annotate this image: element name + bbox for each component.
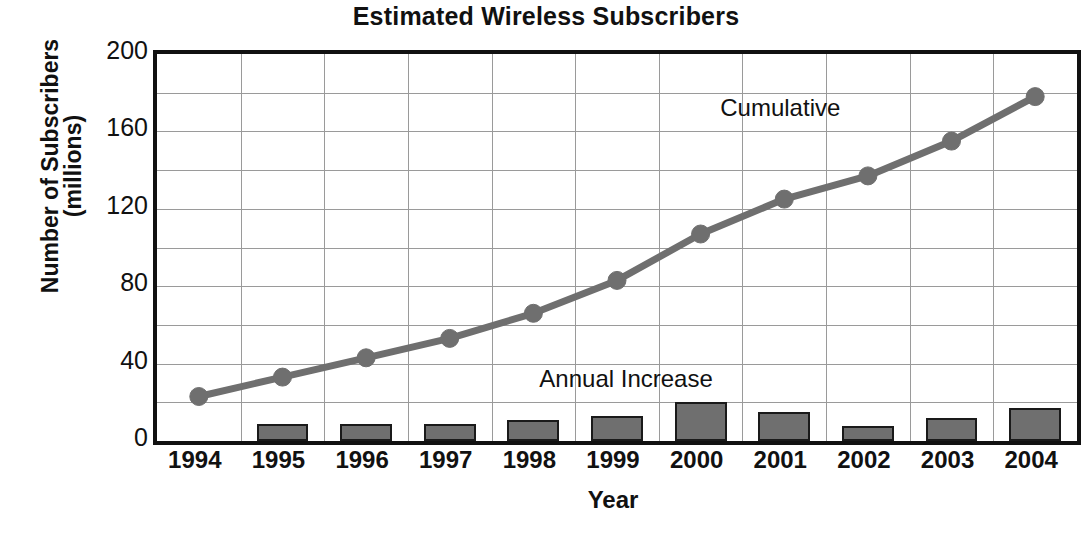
x-axis-tick-label: 2002 xyxy=(837,446,890,474)
x-axis-tick-label: 2000 xyxy=(670,446,723,474)
series-label-cumulative: Cumulative xyxy=(720,94,840,122)
data-point-marker xyxy=(190,388,208,406)
x-axis-tick-labels: 1994199519961997199819992000200120022003… xyxy=(153,446,1073,480)
data-point-marker xyxy=(1026,88,1044,106)
x-axis-tick-label: 1996 xyxy=(335,446,388,474)
x-axis-tick-label: 1997 xyxy=(419,446,472,474)
y-axis-tick-label: 80 xyxy=(86,268,148,297)
y-axis-tick-label: 0 xyxy=(86,423,148,452)
x-axis-tick-label: 1994 xyxy=(168,446,221,474)
x-axis-tick-label: 2001 xyxy=(754,446,807,474)
x-axis-tick-label: 2004 xyxy=(1004,446,1057,474)
data-point-marker xyxy=(357,349,375,367)
y-axis-title: Number of Subscribers (millions) xyxy=(32,0,92,346)
series-label-annual-increase: Annual Increase xyxy=(539,365,712,393)
plot-inner: CumulativeAnnual Increase xyxy=(157,54,1077,441)
data-point-marker xyxy=(775,190,793,208)
cumulative-line-path xyxy=(199,97,1035,397)
y-axis-tick-label: 160 xyxy=(86,113,148,142)
y-axis-tick-labels: 04080120160200 xyxy=(86,0,148,537)
x-axis-tick-label: 1998 xyxy=(503,446,556,474)
x-axis-tick-label: 1995 xyxy=(252,446,305,474)
y-axis-tick-label: 120 xyxy=(86,190,148,219)
y-axis-tick-label: 200 xyxy=(86,36,148,65)
x-axis-tick-label: 2003 xyxy=(921,446,974,474)
data-point-marker xyxy=(524,304,542,322)
x-axis-tick-label: 1999 xyxy=(586,446,639,474)
data-point-marker xyxy=(859,167,877,185)
x-axis-title: Year xyxy=(153,486,1073,514)
plot-area: CumulativeAnnual Increase xyxy=(153,50,1081,445)
chart-title: Estimated Wireless Subscribers xyxy=(0,2,1092,31)
data-point-marker xyxy=(608,271,626,289)
y-axis-title-line-2: (millions) xyxy=(62,115,85,217)
chart-container: Estimated Wireless Subscribers Number of… xyxy=(0,0,1092,537)
data-point-marker xyxy=(441,329,459,347)
y-axis-tick-label: 40 xyxy=(86,345,148,374)
y-axis-title-line-1: Number of Subscribers xyxy=(39,39,62,293)
data-point-marker xyxy=(274,368,292,386)
data-point-marker xyxy=(943,132,961,150)
data-point-marker xyxy=(692,225,710,243)
